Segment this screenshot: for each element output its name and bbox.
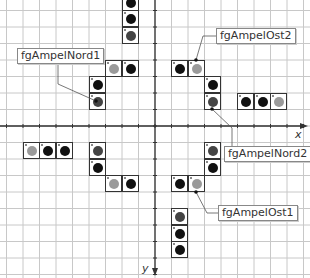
corner-marker: [58, 144, 60, 146]
lamp-icon: [126, 0, 136, 8]
traffic-light-cell[interactable]: [171, 208, 188, 225]
corner-marker: [91, 95, 93, 97]
lamp-icon: [27, 146, 37, 156]
label-fgampelost1[interactable]: fgAmpelOst1: [218, 205, 298, 221]
traffic-light-cell[interactable]: [171, 175, 188, 192]
corner-marker: [256, 95, 258, 97]
traffic-light-cell[interactable]: [204, 76, 221, 93]
lamp-icon: [175, 212, 185, 222]
traffic-light-cell[interactable]: [204, 142, 221, 159]
corner-marker: [107, 62, 109, 64]
lamp-icon: [192, 179, 202, 189]
corner-marker: [206, 161, 208, 163]
corner-marker: [41, 144, 43, 146]
traffic-light-cell[interactable]: [89, 159, 106, 176]
corner-marker: [206, 95, 208, 97]
corner-marker: [239, 95, 241, 97]
traffic-light-cell[interactable]: [23, 142, 40, 159]
x-axis-label: x: [295, 128, 302, 141]
label-fgampelnord2[interactable]: fgAmpelNord2: [224, 146, 310, 162]
traffic-light-cell[interactable]: [171, 60, 188, 77]
lamp-icon: [43, 146, 53, 156]
corner-marker: [173, 243, 175, 245]
y-axis-label: y: [142, 262, 149, 275]
traffic-light-cell[interactable]: [122, 27, 139, 44]
corner-marker: [91, 144, 93, 146]
lamp-icon: [93, 163, 103, 173]
corner-marker: [173, 62, 175, 64]
traffic-light-cell[interactable]: [254, 93, 271, 110]
lamp-icon: [126, 14, 136, 24]
traffic-light-cell[interactable]: [122, 60, 139, 77]
traffic-light-cell[interactable]: [188, 175, 205, 192]
lamp-icon: [274, 97, 284, 107]
traffic-light-cell[interactable]: [188, 60, 205, 77]
lamp-icon: [60, 146, 70, 156]
traffic-light-cell[interactable]: [105, 60, 122, 77]
corner-marker: [173, 227, 175, 229]
traffic-light-cell[interactable]: [270, 93, 287, 110]
lamp-icon: [208, 97, 218, 107]
corner-marker: [173, 210, 175, 212]
lamp-icon: [109, 179, 119, 189]
label-fgampelnord1[interactable]: fgAmpelNord1: [17, 48, 104, 64]
traffic-light-cell[interactable]: [89, 142, 106, 159]
corner-marker: [124, 177, 126, 179]
traffic-light-cell[interactable]: [237, 93, 254, 110]
lamp-icon: [126, 31, 136, 41]
lamp-icon: [258, 97, 268, 107]
corner-marker: [124, 62, 126, 64]
lamp-icon: [241, 97, 251, 107]
corner-marker: [124, 12, 126, 14]
lamp-icon: [126, 64, 136, 74]
corner-marker: [206, 78, 208, 80]
lamp-icon: [93, 97, 103, 107]
traffic-light-diagram: fgAmpelNord1fgAmpelOst2fgAmpelNord2fgAmp…: [0, 0, 310, 278]
lamp-icon: [93, 80, 103, 90]
traffic-light-cell[interactable]: [122, 10, 139, 27]
corner-marker: [91, 78, 93, 80]
lamp-icon: [109, 64, 119, 74]
corner-marker: [25, 144, 27, 146]
lamp-icon: [175, 64, 185, 74]
lamp-icon: [208, 146, 218, 156]
label-fgampelost2[interactable]: fgAmpelOst2: [216, 28, 296, 44]
corner-marker: [124, 29, 126, 31]
traffic-light-cell[interactable]: [171, 241, 188, 258]
corner-marker: [107, 177, 109, 179]
corner-marker: [91, 161, 93, 163]
corner-marker: [206, 144, 208, 146]
traffic-light-cell[interactable]: [89, 76, 106, 93]
corner-marker: [272, 95, 274, 97]
corner-marker: [173, 177, 175, 179]
lamp-icon: [208, 163, 218, 173]
lamp-icon: [175, 245, 185, 255]
lamp-icon: [93, 146, 103, 156]
corner-marker: [190, 177, 192, 179]
lamp-icon: [208, 80, 218, 90]
traffic-light-cell[interactable]: [204, 93, 221, 110]
traffic-light-cell[interactable]: [89, 93, 106, 110]
traffic-light-cell[interactable]: [105, 175, 122, 192]
traffic-light-cell[interactable]: [56, 142, 73, 159]
lamp-icon: [175, 229, 185, 239]
traffic-light-cell[interactable]: [39, 142, 56, 159]
corner-marker: [190, 62, 192, 64]
traffic-light-cell[interactable]: [171, 225, 188, 242]
traffic-light-cell[interactable]: [204, 159, 221, 176]
traffic-light-cell[interactable]: [122, 175, 139, 192]
lamp-icon: [192, 64, 202, 74]
lamp-icon: [126, 179, 136, 189]
lamp-icon: [175, 179, 185, 189]
